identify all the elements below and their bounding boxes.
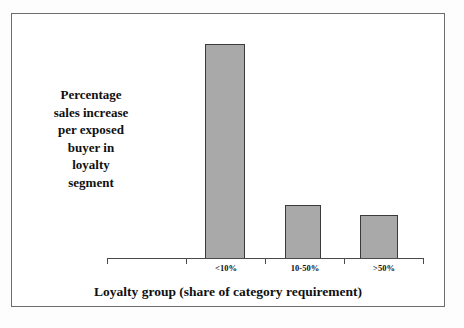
bar-gt-50 xyxy=(360,215,398,259)
x-tick-label-10-50: 10-50% xyxy=(265,263,345,273)
x-tick-label-gt-50: >50% xyxy=(344,263,424,273)
plot-area xyxy=(107,30,424,259)
bar-10-50 xyxy=(285,205,321,259)
x-axis-label: Loyalty group (share of category require… xyxy=(11,284,445,300)
chart-figure: Percentage sales increase per exposed bu… xyxy=(0,0,464,328)
x-tick-label-lt-10: <10% xyxy=(186,263,266,273)
x-axis-tick-0 xyxy=(107,259,108,264)
bar-lt-10 xyxy=(205,44,245,259)
